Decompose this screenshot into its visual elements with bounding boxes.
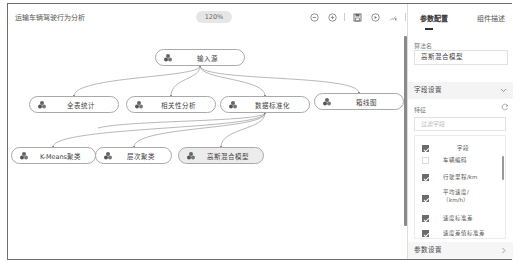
toolbar: 运输车辆驾驶行为分析 120%	[8, 4, 406, 30]
node-label: 输入源	[156, 53, 244, 63]
node-input-source[interactable]: 输入源	[155, 49, 245, 66]
node-data-normalization[interactable]: 数据标准化	[220, 96, 310, 113]
chart-icon[interactable]	[387, 11, 399, 23]
field-checkbox[interactable]	[422, 230, 429, 237]
node-hierarchical-clustering[interactable]: 层次聚类	[95, 147, 172, 164]
tab-component-description[interactable]: 组件描述	[477, 13, 505, 23]
field-name: 速度差值标准差	[443, 229, 503, 237]
node-label: 箱线图	[315, 97, 403, 107]
field-settings-label: 字段设置	[414, 86, 442, 94]
param-settings-header[interactable]: 参数设置	[408, 242, 513, 259]
field-name: 速度标准差	[443, 214, 491, 222]
feature-label: 特征	[414, 105, 426, 114]
filter-fields-input[interactable]: 过滤字段	[414, 117, 506, 131]
node-label: 全表统计	[30, 100, 118, 110]
node-correlation-analysis[interactable]: 相关性分析	[126, 96, 216, 113]
save-icon[interactable]	[351, 11, 363, 23]
algorithm-name-field[interactable]: 高斯混合模型	[414, 50, 508, 65]
field-list: 字段 车辆编码 行驶里程/km 平均速度/（km/h） 速度标准差 速度差值标准…	[414, 135, 506, 239]
node-label: K-Means聚类	[12, 151, 95, 161]
node-label: 数据标准化	[221, 100, 309, 110]
param-settings-label: 参数设置	[414, 246, 442, 254]
toolbar-divider	[405, 13, 406, 21]
field-checkbox[interactable]	[422, 157, 429, 164]
algorithm-name-label: 算法名	[414, 41, 432, 50]
field-name: 行驶里程/km	[443, 173, 491, 181]
properties-panel: 参数配置 组件描述 算法名 高斯混合模型 字段设置 特征 过滤字段 字段 车辆编…	[407, 4, 512, 259]
zoom-level-badge[interactable]: 120%	[196, 11, 232, 23]
field-list-scrollbar[interactable]	[502, 156, 504, 180]
workflow-canvas[interactable]: 输入源 全表统计 相关性分析 数据标准化 箱线图	[8, 30, 406, 260]
node-gaussian-mixture-model[interactable]: 高斯混合模型	[178, 147, 264, 164]
node-full-table-stats[interactable]: 全表统计	[29, 96, 119, 113]
node-label: 相关性分析	[127, 100, 215, 110]
field-name: 平均速度/（km/h）	[443, 188, 477, 204]
field-checkbox[interactable]	[422, 195, 429, 202]
panel-tabs: 参数配置 组件描述	[408, 4, 512, 30]
field-checkbox[interactable]	[422, 215, 429, 222]
app-window: 运输车辆驾驶行为分析 120%	[7, 3, 512, 260]
zoom-in-icon[interactable]	[326, 11, 338, 23]
node-label: 层次聚类	[96, 151, 171, 161]
refresh-icon[interactable]	[501, 103, 509, 113]
zoom-out-icon[interactable]	[308, 11, 320, 23]
field-settings-header[interactable]: 字段设置	[408, 82, 513, 99]
field-checkbox[interactable]	[422, 174, 429, 181]
node-box-plot[interactable]: 箱线图	[314, 93, 404, 110]
field-name: 车辆编码	[443, 156, 491, 164]
field-column-header: 字段	[457, 144, 505, 152]
node-kmeans-clustering[interactable]: K-Means聚类	[11, 147, 96, 164]
app-title: 运输车辆驾驶行为分析	[15, 12, 85, 22]
active-tab-indicator	[425, 28, 433, 30]
chevron-right-icon	[500, 242, 507, 266]
node-label: 高斯混合模型	[179, 151, 263, 161]
toolbar-divider	[344, 13, 345, 21]
tab-param-config[interactable]: 参数配置	[420, 13, 448, 23]
select-all-checkbox[interactable]	[422, 145, 429, 152]
run-icon[interactable]	[369, 11, 381, 23]
